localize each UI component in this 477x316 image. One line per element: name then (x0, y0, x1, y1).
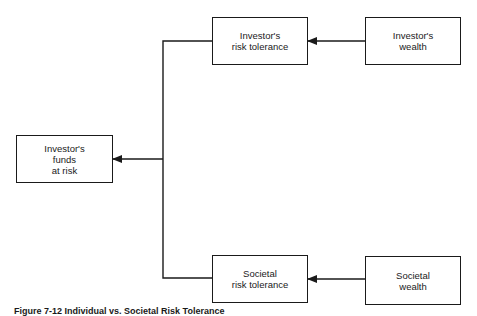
node-label-line: risk tolerance (232, 279, 289, 290)
node-label-line: funds (44, 154, 84, 165)
node-label-line: wealth (396, 281, 430, 292)
node-societal-wealth: Societal wealth (365, 256, 461, 305)
node-label-line: at risk (44, 165, 84, 176)
node-label-line: Investor's (232, 30, 289, 41)
node-label-line: Societal (232, 268, 289, 279)
node-investor-funds-at-risk: Investor's funds at risk (16, 135, 113, 183)
bracket-connector (163, 41, 212, 278)
figure-caption: Figure 7-12 Individual vs. Societal Risk… (14, 306, 224, 316)
node-label-line: wealth (393, 41, 433, 52)
node-label-line: risk tolerance (232, 41, 289, 52)
node-investor-risk-tolerance: Investor's risk tolerance (212, 17, 308, 65)
node-label-line: Investor's (393, 30, 433, 41)
node-label-line: Societal (396, 270, 430, 281)
node-investor-wealth: Investor's wealth (365, 17, 461, 65)
node-label-line: Investor's (44, 143, 84, 154)
node-societal-risk-tolerance: Societal risk tolerance (212, 255, 308, 303)
